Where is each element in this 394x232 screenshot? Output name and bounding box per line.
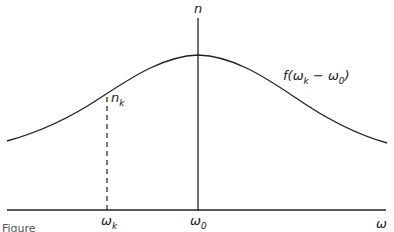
figure-caption: Figure xyxy=(2,222,36,232)
diagram-canvas xyxy=(0,0,394,232)
tick-label-omega-0: ω0 xyxy=(190,213,207,231)
curve-label: f(ωk − ω0) xyxy=(283,68,350,86)
nk-label: nk xyxy=(111,90,124,108)
y-axis-label: n xyxy=(194,1,202,16)
x-axis-label: ω xyxy=(376,216,387,231)
tick-label-omega-k: ωk xyxy=(101,213,117,231)
